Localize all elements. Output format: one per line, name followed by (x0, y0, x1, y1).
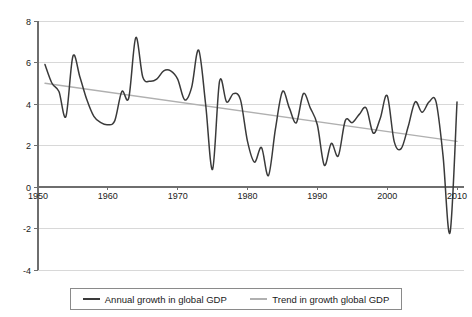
y-axis-tick-labels: 86420-2-4 (23, 17, 31, 276)
chart-legend: Annual growth in global GDP Trend in gro… (70, 288, 402, 310)
x-tick-label: 1960 (98, 191, 118, 201)
series-line-annual-growth (45, 37, 457, 233)
y-tick-label: 8 (26, 17, 31, 27)
x-tick-label: 2010 (447, 191, 467, 201)
x-axis-tick-labels: 1950196019701980199020002010 (28, 191, 467, 201)
legend-swatch-trend (250, 298, 267, 300)
legend-label-annual-growth: Annual growth in global GDP (105, 294, 227, 305)
x-tick-label: 2000 (377, 191, 397, 201)
legend-label-trend: Trend in growth global GDP (272, 294, 389, 305)
legend-swatch-annual-growth (83, 298, 100, 300)
y-tick-label: -4 (23, 266, 31, 276)
x-tick-label: 1970 (168, 191, 188, 201)
chart-plot-area: 86420-2-4 1950196019701980199020002010 (0, 0, 472, 317)
gridlines (38, 21, 464, 270)
y-tick-label: 6 (26, 58, 31, 68)
legend-item-trend: Trend in growth global GDP (250, 294, 389, 305)
y-tick-label: 2 (26, 141, 31, 151)
y-tick-label: 4 (26, 100, 31, 110)
x-tick-label: 1980 (237, 191, 257, 201)
x-tick-label: 1990 (307, 191, 327, 201)
y-tick-label: -2 (23, 224, 31, 234)
series-line-trend (45, 83, 457, 141)
x-tick-label: 1950 (28, 191, 48, 201)
y-axis-ticks (34, 21, 38, 270)
legend-item-annual-growth: Annual growth in global GDP (83, 294, 227, 305)
gdp-growth-chart-figure: 86420-2-4 1950196019701980199020002010 A… (0, 0, 472, 317)
